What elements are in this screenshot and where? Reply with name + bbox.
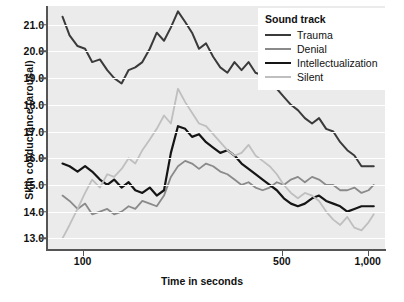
x-tick-mark bbox=[282, 249, 284, 256]
legend-item[interactable]: Denial bbox=[265, 42, 378, 56]
legend-swatch-icon bbox=[265, 76, 291, 78]
legend-item-label: Intellectualization bbox=[297, 57, 378, 69]
legend-item-label: Silent bbox=[297, 71, 323, 83]
x-tick-label: 1,000 bbox=[355, 255, 381, 267]
y-tick-label: 21.0 bbox=[2, 19, 44, 31]
legend-swatch-icon bbox=[265, 48, 291, 50]
legend-item[interactable]: Intellectualization bbox=[265, 56, 378, 70]
y-tick-mark bbox=[40, 238, 47, 240]
gridline bbox=[47, 132, 385, 133]
legend-item-label: Trauma bbox=[297, 29, 333, 41]
y-tick-mark bbox=[40, 211, 47, 213]
y-tick-mark bbox=[40, 157, 47, 159]
y-axis-tick-labels: 13.014.015.016.017.018.019.020.021.0 bbox=[0, 0, 44, 302]
y-tick-label: 18.0 bbox=[2, 99, 44, 111]
y-tick-label: 14.0 bbox=[2, 206, 44, 218]
y-tick-label: 15.0 bbox=[2, 179, 44, 191]
legend-item-label: Denial bbox=[297, 43, 327, 55]
x-tick-mark bbox=[83, 249, 85, 256]
legend-item[interactable]: Silent bbox=[265, 70, 378, 84]
line-series-silent bbox=[63, 89, 374, 239]
legend-swatch-icon bbox=[265, 62, 291, 64]
x-tick-label: 500 bbox=[273, 255, 291, 267]
gridline bbox=[47, 158, 385, 159]
gridline bbox=[47, 238, 385, 239]
y-tick-mark bbox=[40, 77, 47, 79]
gridline bbox=[47, 185, 385, 186]
line-series-denial bbox=[63, 161, 374, 214]
x-tick-mark bbox=[368, 249, 370, 256]
y-tick-label: 19.0 bbox=[2, 72, 44, 84]
y-tick-mark bbox=[40, 131, 47, 133]
gridline bbox=[47, 212, 385, 213]
y-tick-label: 13.0 bbox=[2, 232, 44, 244]
x-axis-line bbox=[46, 249, 386, 251]
gridline bbox=[47, 105, 385, 106]
y-tick-mark bbox=[40, 184, 47, 186]
y-tick-label: 16.0 bbox=[2, 152, 44, 164]
legend-title: Sound track bbox=[265, 13, 378, 25]
legend-swatch-icon bbox=[265, 34, 291, 36]
x-tick-label: 100 bbox=[74, 255, 92, 267]
legend: Sound track TraumaDenialIntellectualizat… bbox=[258, 8, 385, 90]
y-tick-label: 17.0 bbox=[2, 126, 44, 138]
legend-item[interactable]: Trauma bbox=[265, 28, 378, 42]
x-axis-title: Time in seconds bbox=[0, 275, 404, 287]
y-tick-mark bbox=[40, 104, 47, 106]
y-axis-line bbox=[46, 6, 48, 250]
y-tick-mark bbox=[40, 24, 47, 26]
chart-container: Skin conductance (arousal) 13.014.015.01… bbox=[0, 0, 404, 302]
y-tick-label: 20.0 bbox=[2, 45, 44, 57]
y-tick-mark bbox=[40, 51, 47, 53]
